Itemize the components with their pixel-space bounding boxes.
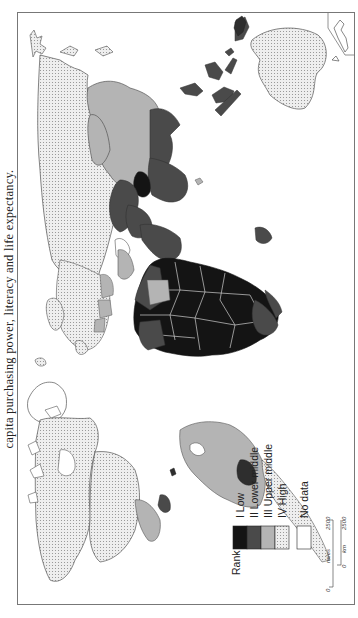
legend-item-low: I Low xyxy=(233,492,247,549)
scale-bar: 0 miles 2500 0 km 2500 xyxy=(325,516,347,592)
legend-swatch-low xyxy=(233,526,247,549)
legend-item-upper-middle: III Upper middle xyxy=(261,444,275,549)
region-caribbean xyxy=(170,468,176,476)
legend-swatch-upper-middle xyxy=(261,526,275,549)
region-central-america xyxy=(158,495,170,513)
scale-km-start: 0 xyxy=(341,564,347,568)
region-madagascar xyxy=(255,227,272,243)
legend-item-high: IV High xyxy=(275,483,289,549)
legend-label-upper-middle: III Upper middle xyxy=(262,444,274,518)
legend-label-high: IV High xyxy=(276,483,288,518)
region-australia xyxy=(251,28,326,109)
legend-swatch-lower-middle xyxy=(247,526,261,549)
region-iceland xyxy=(35,358,46,366)
legend-label-no-data: No data xyxy=(298,481,310,518)
region-canada xyxy=(35,418,98,582)
region-arabia xyxy=(140,224,181,260)
scale-km-unit: km xyxy=(341,545,347,553)
scale-miles-end: 2500 xyxy=(325,516,331,531)
legend-swatch-high xyxy=(275,526,289,549)
legend-title: Rank xyxy=(230,550,242,575)
inset-box xyxy=(328,13,355,61)
scale-km-end: 2500 xyxy=(341,516,347,531)
region-japan xyxy=(30,30,46,57)
scale-miles-unit: miles xyxy=(325,549,331,563)
region-arctic-islands xyxy=(60,46,113,56)
region-mexico xyxy=(135,500,160,542)
region-usa xyxy=(89,452,139,562)
region-saudi-upper xyxy=(118,250,134,279)
region-india xyxy=(148,158,187,202)
region-greenland xyxy=(28,382,67,423)
legend-item-lower-middle: II Lower middle xyxy=(247,447,261,549)
scale-miles-start: 0 xyxy=(325,588,331,592)
legend-label-low: I Low xyxy=(234,492,246,518)
legend-item-no-data: No data xyxy=(297,481,311,549)
world-rank-map: Rank I Low II Lower middle III Upper mid… xyxy=(0,0,358,618)
legend-label-lower-middle: II Lower middle xyxy=(248,447,260,518)
region-egypt xyxy=(139,320,165,350)
legend-swatch-no-data xyxy=(297,526,311,549)
region-sri-lanka xyxy=(195,178,203,185)
